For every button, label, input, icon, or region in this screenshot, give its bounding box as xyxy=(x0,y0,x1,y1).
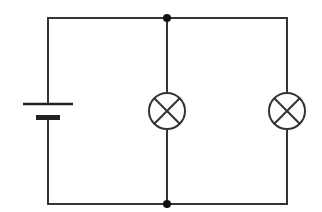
circuit-diagram xyxy=(0,0,322,212)
lamp-icon xyxy=(269,93,305,129)
junction-dot-top xyxy=(163,14,171,22)
battery-negative-plate xyxy=(36,115,60,120)
lamp-icon xyxy=(149,93,185,129)
battery-icon xyxy=(23,104,73,120)
junction-dot-bottom xyxy=(163,200,171,208)
